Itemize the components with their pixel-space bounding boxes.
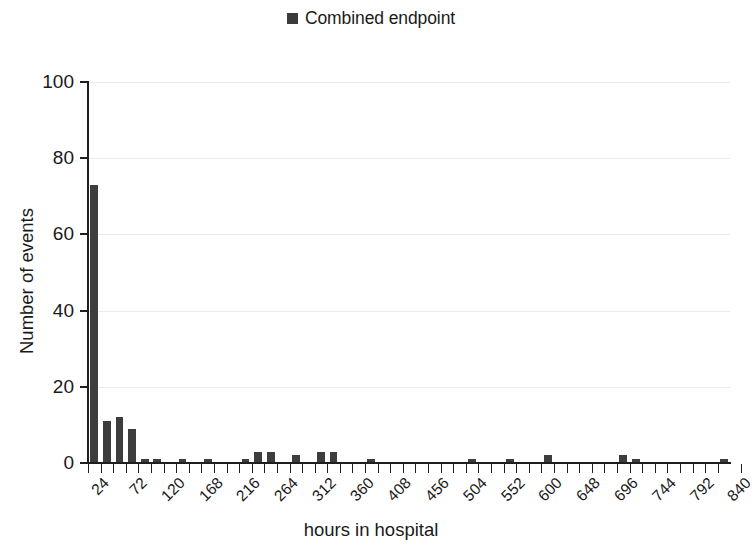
bar-slot: [239, 82, 252, 463]
x-axis-tick: [541, 464, 554, 473]
bar-slot: [453, 82, 466, 463]
bar-slot: [617, 82, 630, 463]
y-axis-tick-label: 20: [2, 376, 74, 398]
bar-slot: [327, 82, 340, 463]
x-axis-tick: [680, 464, 693, 473]
x-axis-tick: [516, 464, 529, 473]
bar-slot: [201, 82, 214, 463]
x-axis-tick: [705, 464, 718, 473]
x-axis-tick: [176, 464, 189, 473]
y-axis-tick: [80, 386, 88, 388]
bar-slot: [693, 82, 706, 463]
bar: [90, 185, 98, 463]
bar-slot: [214, 82, 227, 463]
bar-slot: [138, 82, 151, 463]
bar-series-combined-endpoint: [88, 82, 730, 463]
x-axis-tick: [315, 464, 328, 473]
x-axis-tick: [201, 464, 214, 473]
x-axis-tick: [693, 464, 706, 473]
bar-slot: [718, 82, 731, 463]
x-axis-tick: [390, 464, 403, 473]
x-axis-tick-label: 744: [634, 474, 679, 519]
y-axis-tick-label: 80: [2, 147, 74, 169]
x-axis-tick: [290, 464, 303, 473]
x-axis-tick-end: [741, 464, 742, 473]
x-axis-tick: [554, 464, 567, 473]
bar-slot: [378, 82, 391, 463]
x-axis-tick-label: 312: [294, 474, 339, 519]
x-axis-tick: [378, 464, 391, 473]
bar-slot: [466, 82, 479, 463]
x-axis-tick: [252, 464, 265, 473]
y-axis-tick-label: 100: [2, 71, 74, 93]
bar-slot: [88, 82, 101, 463]
bar-slot: [441, 82, 454, 463]
bar-slot: [340, 82, 353, 463]
x-axis-tick: [277, 464, 290, 473]
x-axis-tick: [415, 464, 428, 473]
y-axis-title: Number of events: [16, 171, 38, 391]
x-axis-tick: [579, 464, 592, 473]
x-axis-tick: [88, 464, 101, 473]
x-axis-tick: [478, 464, 491, 473]
legend-swatch-icon: [287, 13, 298, 24]
x-axis-tick-label: 216: [219, 474, 264, 519]
x-axis-tick: [491, 464, 504, 473]
x-axis-tick-label: 648: [559, 474, 604, 519]
bar-slot: [315, 82, 328, 463]
bar-slot: [592, 82, 605, 463]
x-axis-tick: [101, 464, 114, 473]
x-axis-tick: [164, 464, 177, 473]
x-axis-tick-label: 360: [332, 474, 377, 519]
x-axis-tick: [403, 464, 416, 473]
x-axis-tick-label: 168: [181, 474, 226, 519]
x-axis-tick: [655, 464, 668, 473]
bar-slot: [277, 82, 290, 463]
x-axis-tick: [113, 464, 126, 473]
bar-slot: [491, 82, 504, 463]
x-axis-tick: [340, 464, 353, 473]
bar-slot: [478, 82, 491, 463]
bar-slot: [680, 82, 693, 463]
x-axis-tick: [227, 464, 240, 473]
x-axis-tick: [126, 464, 139, 473]
x-axis-tick-label: 792: [672, 474, 717, 519]
bar-slot: [516, 82, 529, 463]
x-axis-tick: [642, 464, 655, 473]
bar-slot: [101, 82, 114, 463]
x-axis-tick: [504, 464, 517, 473]
x-axis-tick-label: 552: [483, 474, 528, 519]
bar-slot: [567, 82, 580, 463]
x-axis-tick: [264, 464, 277, 473]
x-axis-tick-label: 120: [143, 474, 188, 519]
bar-slot: [264, 82, 277, 463]
x-axis-tick-label: 72: [106, 474, 151, 519]
x-axis-tick: [617, 464, 630, 473]
x-axis-tick-label: 696: [596, 474, 641, 519]
bar-slot: [655, 82, 668, 463]
x-axis-tick: [667, 464, 680, 473]
bar-slot: [579, 82, 592, 463]
bar-slot: [164, 82, 177, 463]
bar-slot: [529, 82, 542, 463]
bar-slot: [630, 82, 643, 463]
chart-legend: Combined endpoint: [0, 8, 742, 29]
bar-slot: [428, 82, 441, 463]
x-axis-tick: [529, 464, 542, 473]
bar-slot: [667, 82, 680, 463]
x-axis-tick-label: 264: [257, 474, 302, 519]
x-axis-tick: [189, 464, 202, 473]
x-axis-title: hours in hospital: [0, 519, 742, 541]
y-axis-tick-label: 60: [2, 223, 74, 245]
x-axis-tick: [466, 464, 479, 473]
x-axis-tick: [214, 464, 227, 473]
x-axis-tick: [302, 464, 315, 473]
bar-slot: [113, 82, 126, 463]
bar-slot: [554, 82, 567, 463]
bar-slot: [151, 82, 164, 463]
bar-slot: [290, 82, 303, 463]
x-axis-tick-label: 504: [445, 474, 490, 519]
x-axis-tick: [151, 464, 164, 473]
bar-slot: [604, 82, 617, 463]
x-axis-tick: [567, 464, 580, 473]
